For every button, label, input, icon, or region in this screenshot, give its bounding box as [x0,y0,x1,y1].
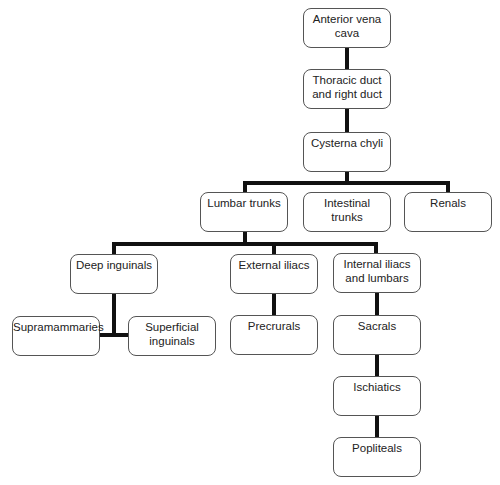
node-thoracic-duct: Thoracic duct and right duct [303,69,391,109]
connector-deep-stem [112,294,116,337]
connector-external-precrurals [272,294,276,315]
connector-sacrals-ischiatics [375,355,379,376]
connector-renals-drop [446,181,450,192]
connector-vena-cava-thoracic [345,48,349,69]
connector-internal-sacrals [375,293,379,315]
connector-lumbar-drop [243,181,247,192]
connector-trunk-bar [243,181,450,185]
node-cysterna-chyli: Cysterna chyli [303,132,391,172]
connector-ischiatics-popliteals [375,416,379,437]
node-precrurals: Precrurals [230,315,318,355]
node-renals: Renals [404,192,492,232]
node-ischiatics: Ischiatics [333,376,421,416]
node-deep-inguinals: Deep inguinals [70,254,158,294]
connector-external-drop [272,242,276,254]
node-lumbar-trunks: Lumbar trunks [200,192,288,232]
node-superficial-inguinals: Superficial inguinals [128,316,216,356]
lymph-flow-diagram: Anterior vena cava Thoracic duct and rig… [0,0,500,485]
connector-internal-drop [374,242,378,253]
node-supramammaries: Supramammaries [12,316,100,356]
node-sacrals: Sacrals [333,315,421,355]
node-internal-iliacs: Internal iliacs and lumbars [333,253,421,293]
connector-lumbar-bar [112,242,378,246]
node-popliteals: Popliteals [333,437,421,477]
node-intestinal-trunks: Intestinal trunks [303,192,391,232]
connector-thoracic-cysterna [345,109,349,132]
node-external-iliacs: External iliacs [230,254,318,294]
connector-deep-drop [112,242,116,254]
node-anterior-vena-cava: Anterior vena cava [303,8,391,48]
connector-supra-superficial [100,333,128,337]
